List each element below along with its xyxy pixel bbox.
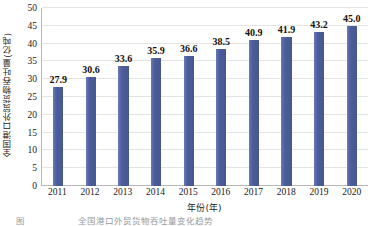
bar-value-label: 45.0 [343, 13, 361, 24]
y-axis-tick-label: 25 [28, 92, 38, 102]
x-axis-tick-label: 2014 [139, 187, 172, 202]
y-axis-title-text: 全国港口外贸货物吞吐量(亿吨) [4, 33, 13, 157]
bar-slot: 33.6 [107, 8, 140, 186]
bar-slot: 45.0 [335, 8, 368, 186]
bar-slot: 38.5 [205, 8, 238, 186]
y-axis-tick-labels: 05101520253035404550 [16, 8, 40, 186]
bar[interactable]: 36.6 [184, 56, 194, 186]
bar[interactable]: 41.9 [281, 37, 291, 186]
y-axis-tick-label: 5 [32, 163, 37, 173]
x-axis-tick-label: 2019 [303, 187, 336, 202]
bar[interactable]: 30.6 [86, 77, 96, 186]
bar-slot: 27.9 [42, 8, 75, 186]
x-axis-tick-label: 2017 [237, 187, 270, 202]
x-axis-tick-labels: 2011201220132014201520162017201820192020 [41, 187, 368, 202]
x-axis-tick-label: 2016 [205, 187, 238, 202]
bar-slot: 30.6 [75, 8, 108, 186]
bar-value-label: 30.6 [82, 64, 100, 75]
bar-slot: 40.9 [238, 8, 271, 186]
bar[interactable]: 27.9 [53, 87, 63, 186]
x-axis-tick-label: 2018 [270, 187, 303, 202]
y-axis-tick-label: 45 [28, 21, 38, 31]
figure-caption: 图 全国港口外贸货物吞吐量变化趋势 [0, 216, 370, 226]
x-axis-tick-label: 2015 [172, 187, 205, 202]
bar[interactable]: 43.2 [314, 32, 324, 186]
bar-value-label: 40.9 [245, 27, 263, 38]
bar-value-label: 38.5 [213, 36, 231, 47]
figure-caption-text: 全国港口外贸货物吞吐量变化趋势 [78, 216, 213, 226]
x-axis-tick-label: 2011 [41, 187, 74, 202]
bar[interactable]: 38.5 [216, 49, 226, 186]
plot-area: 27.930.633.635.936.638.540.941.943.245.0 [41, 8, 368, 186]
x-axis-title: 年份(年) [41, 201, 368, 214]
x-axis-tick-label: 2020 [335, 187, 368, 202]
bar-slot: 43.2 [303, 8, 336, 186]
bar-value-label: 41.9 [278, 24, 296, 35]
y-axis-title: 全国港口外贸货物吞吐量(亿吨) [0, 0, 16, 190]
bar-value-label: 33.6 [115, 53, 133, 64]
bar[interactable]: 40.9 [249, 40, 259, 186]
y-axis-tick-label: 30 [28, 74, 38, 84]
x-axis-tick-label: 2013 [106, 187, 139, 202]
bar[interactable]: 33.6 [118, 66, 128, 186]
bar-slot: 36.6 [172, 8, 205, 186]
y-axis-tick-label: 20 [28, 110, 38, 120]
y-axis-tick-label: 35 [28, 56, 38, 66]
y-axis-tick-label: 40 [28, 39, 38, 49]
chart-figure: 全国港口外贸货物吞吐量(亿吨) 05101520253035404550 27.… [0, 0, 370, 226]
bar-slot: 41.9 [270, 8, 303, 186]
y-axis-tick-label: 0 [32, 181, 37, 191]
bar-series: 27.930.633.635.936.638.540.941.943.245.0 [42, 8, 368, 186]
x-axis-tick-label: 2012 [74, 187, 107, 202]
bar-value-label: 35.9 [147, 45, 165, 56]
bar[interactable]: 45.0 [347, 26, 357, 186]
bar-slot: 35.9 [140, 8, 173, 186]
y-axis-tick-label: 10 [28, 145, 38, 155]
bar-value-label: 43.2 [310, 19, 328, 30]
bar-value-label: 27.9 [50, 74, 68, 85]
y-axis-tick-label: 50 [28, 3, 38, 13]
y-axis-tick-label: 15 [28, 128, 38, 138]
bar-value-label: 36.6 [180, 43, 198, 54]
figure-caption-mark: 图 [16, 216, 25, 226]
bar[interactable]: 35.9 [151, 58, 161, 186]
